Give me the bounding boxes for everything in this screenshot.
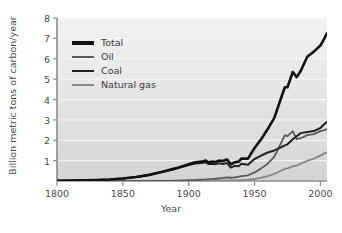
legend-swatch-icon xyxy=(72,84,94,87)
y-tick-label: 6 xyxy=(35,53,50,64)
legend-label: Total xyxy=(101,38,123,48)
chart-figure: Billion metric tons of carbon/year Year … xyxy=(0,0,342,233)
x-tick-label: 1900 xyxy=(177,188,201,199)
legend-item-total[interactable]: Total xyxy=(72,36,156,50)
x-tick-label: 1800 xyxy=(45,188,69,199)
x-axis-title: Year xyxy=(0,203,342,214)
y-tick-label: 3 xyxy=(35,114,50,125)
legend-label: Coal xyxy=(101,66,122,76)
y-tick-label: 7 xyxy=(35,33,50,44)
x-tick-label: 1950 xyxy=(242,188,266,199)
legend-label: Oil xyxy=(101,52,114,62)
y-tick-label: 5 xyxy=(35,74,50,85)
legend-label: Natural gas xyxy=(101,80,156,90)
y-tick-label: 1 xyxy=(35,155,50,166)
legend-item-coal[interactable]: Coal xyxy=(72,64,156,78)
x-tick-label: 1850 xyxy=(111,188,135,199)
legend-swatch-icon xyxy=(72,41,94,44)
y-tick-label: 4 xyxy=(35,94,50,105)
legend-item-oil[interactable]: Oil xyxy=(72,50,156,64)
legend-swatch-icon xyxy=(72,70,94,73)
chart-legend: TotalOilCoalNatural gas xyxy=(72,36,156,92)
y-tick-label: 8 xyxy=(35,13,50,24)
legend-swatch-icon xyxy=(72,56,94,59)
y-tick-label: 2 xyxy=(35,135,50,146)
legend-item-natural-gas[interactable]: Natural gas xyxy=(72,78,156,92)
y-axis-title: Billion metric tons of carbon/year xyxy=(7,16,18,174)
x-tick-label: 2000 xyxy=(308,188,332,199)
y-axis-title-wrap: Billion metric tons of carbon/year xyxy=(0,0,24,190)
